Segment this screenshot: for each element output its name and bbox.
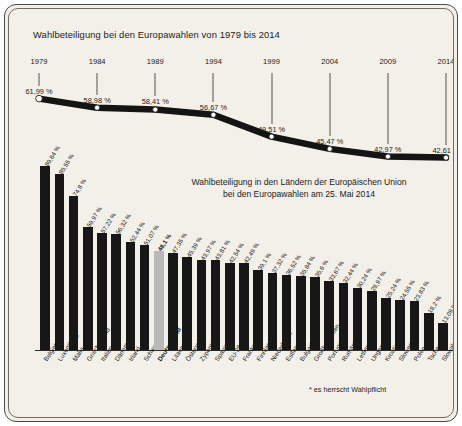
bar [253,270,263,350]
bar [296,276,306,350]
bar-chart-title-line2: bei den Europawahlen am 25. Mai 2014 [149,189,449,201]
bar [367,291,377,351]
bar-chart-title: Wahlbeteiligung in den Ländern der Europ… [149,177,449,200]
bar-value-label: 85,55 % [57,153,75,176]
bar-value-label: 47,35 % [170,231,188,254]
bar-value-label: 59,97 % [85,205,103,228]
bar [324,281,334,350]
bar [381,298,391,350]
bar-value-label: 51,07 % [142,223,160,246]
footnote: * es herrscht Wahlpflicht [309,385,386,394]
bar [225,263,235,350]
bar [111,234,121,350]
bar [55,174,65,350]
bar-highlight [154,251,164,350]
bar [353,288,363,350]
bar-value-label: 13,09 % [440,301,454,324]
bar [310,277,320,350]
bar-value-label: 28,97 % [369,269,387,292]
bar [126,242,136,350]
bar [211,260,221,350]
bar [438,323,448,350]
bar [239,263,249,350]
bar [424,313,434,350]
bar-value-label: 35,6 % [313,258,329,278]
bar-chart-title-line1: Wahlbeteiligung in den Ländern der Europ… [149,177,449,189]
bar-value-label: 74,8 % [71,178,87,198]
infographic-inner-border: Wahlbeteiligung bei den Europawahlen von… [8,8,454,418]
bar [182,257,192,350]
bar-chart: 89,64 %Belgien*85,55 %Luxemburg*74,8 %Ma… [9,9,454,418]
bar [69,196,79,350]
bar [40,166,50,350]
bar-value-label: 39,1 % [256,251,272,271]
bar [97,233,107,351]
bar-value-label: 18,2 % [426,294,442,314]
bar [395,300,405,350]
bar-value-label: 89,64 % [43,144,61,167]
bar [197,260,207,350]
bar [410,301,420,350]
bar [83,227,93,350]
bar [282,275,292,350]
infographic-frame: Wahlbeteiligung bei den Europawahlen von… [4,4,458,422]
bar [168,253,178,350]
bar [140,245,150,350]
bar [339,283,349,350]
bar [268,273,278,350]
